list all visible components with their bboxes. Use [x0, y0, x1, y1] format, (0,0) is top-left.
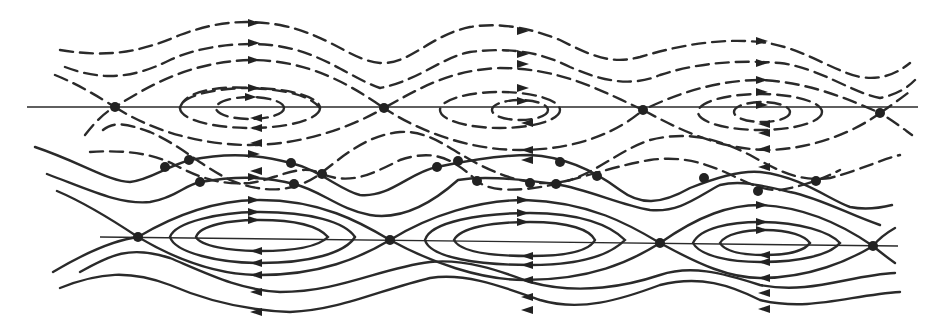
arrow-left-icon	[758, 258, 770, 266]
arrow-right-icon	[756, 201, 768, 209]
arrow-right-icon	[248, 19, 260, 27]
arrow-left-icon	[250, 271, 262, 279]
saddle-point	[110, 102, 120, 112]
arrow-left-icon	[250, 114, 262, 122]
bottom-axis-line	[100, 237, 898, 246]
arrow-right-icon	[517, 84, 529, 92]
saddle-point	[868, 241, 878, 251]
arrow-left-icon	[521, 156, 533, 164]
arrow-left-icon	[521, 252, 533, 260]
intersection-point	[286, 158, 296, 168]
arrow-left-icon	[758, 163, 770, 171]
arrow-left-icon	[521, 306, 533, 314]
arrow-right-icon	[517, 209, 529, 217]
arrow-left-icon	[250, 247, 262, 255]
bottom-vortex-chain	[53, 191, 900, 316]
top-vortex-chain	[27, 19, 918, 190]
intersection-point	[160, 162, 170, 172]
intersection-point	[317, 169, 327, 179]
arrow-left-icon	[758, 305, 770, 313]
arrow-right-icon	[248, 216, 260, 224]
arrow-left-icon	[250, 124, 262, 132]
arrow-right-icon	[756, 101, 768, 109]
saddle-point	[385, 235, 395, 245]
arrow-right-icon	[245, 93, 257, 101]
arrow-right-icon	[756, 37, 768, 45]
arrow-right-icon	[248, 56, 260, 64]
saddle-point	[875, 108, 885, 118]
saddle-point	[133, 232, 143, 242]
arrow-left-icon	[758, 251, 770, 259]
arrow-left-icon	[521, 146, 533, 154]
middle-band	[35, 147, 892, 225]
arrow-right-icon	[756, 218, 768, 226]
saddle-point	[638, 105, 648, 115]
arrow-left-icon	[758, 289, 770, 297]
arrow-left-icon	[250, 167, 262, 175]
intersection-point	[811, 176, 821, 186]
arrow-left-icon	[521, 261, 533, 269]
arrow-right-icon	[517, 60, 529, 68]
intersection-point	[432, 162, 442, 172]
arrow-left-icon	[521, 276, 533, 284]
intersection-point	[472, 176, 482, 186]
arrow-right-icon	[248, 84, 260, 92]
arrow-right-icon	[248, 39, 260, 47]
intersection-point	[592, 171, 602, 181]
arrow-left-icon	[758, 145, 770, 153]
saddle-point	[655, 238, 665, 248]
intersection-point	[453, 156, 463, 166]
arrow-right-icon	[517, 97, 529, 105]
intersection-point	[555, 157, 565, 167]
arrow-right-icon	[248, 196, 260, 204]
phase-portrait-diagram	[0, 0, 944, 330]
arrow-right-icon	[248, 208, 260, 216]
arrow-right-icon	[756, 226, 768, 234]
arrow-right-icon	[248, 173, 260, 181]
arrow-left-icon	[250, 259, 262, 267]
intersection-point	[184, 155, 194, 165]
arrow-right-icon	[756, 76, 768, 84]
arrow-left-icon	[758, 274, 770, 282]
arrow-right-icon	[517, 196, 529, 204]
intersection-point	[289, 179, 299, 189]
intersection-point	[525, 178, 535, 188]
intersection-point	[195, 177, 205, 187]
arrow-right-icon	[517, 218, 529, 226]
intersection-point	[753, 186, 763, 196]
arrow-right-icon	[756, 59, 768, 67]
intersection-point	[551, 179, 561, 189]
intersection-point	[699, 173, 709, 183]
saddle-point	[379, 103, 389, 113]
